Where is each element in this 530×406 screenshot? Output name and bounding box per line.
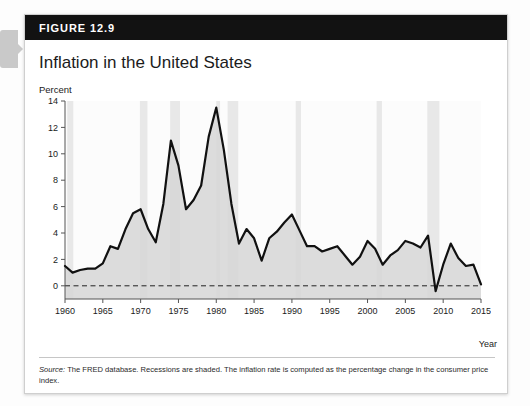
svg-text:14: 14: [48, 97, 58, 106]
svg-text:10: 10: [48, 149, 58, 159]
svg-text:1980: 1980: [206, 306, 226, 316]
svg-text:1985: 1985: [244, 306, 264, 316]
figure-card: FIGURE 12.9 Inflation in the United Stat…: [24, 14, 508, 394]
svg-text:1995: 1995: [320, 306, 340, 316]
svg-text:2010: 2010: [433, 306, 453, 316]
chart-plot-area: 0246810121419601965197019751980198519901…: [39, 97, 491, 329]
svg-text:8: 8: [53, 175, 58, 185]
svg-text:1960: 1960: [55, 306, 75, 316]
inflation-line-chart: 0246810121419601965197019751980198519901…: [39, 97, 491, 329]
figure-header: FIGURE 12.9: [25, 15, 507, 40]
svg-text:0: 0: [53, 281, 58, 291]
y-axis-unit-label: Percent: [25, 73, 507, 95]
figure-number-label: FIGURE 12.9: [25, 22, 115, 34]
svg-text:1970: 1970: [131, 306, 151, 316]
source-prefix: Source:: [39, 365, 65, 374]
svg-text:1965: 1965: [93, 306, 113, 316]
source-divider: [39, 357, 495, 358]
svg-text:4: 4: [53, 228, 58, 238]
svg-text:2: 2: [53, 255, 58, 265]
x-axis-title: Year: [479, 339, 497, 349]
svg-text:6: 6: [53, 202, 58, 212]
svg-text:2005: 2005: [395, 306, 415, 316]
svg-text:12: 12: [48, 123, 58, 133]
svg-text:1990: 1990: [282, 306, 302, 316]
page-bookmark-tab: [0, 30, 18, 68]
figure-title: Inflation in the United States: [25, 40, 507, 73]
figure-page: FIGURE 12.9 Inflation in the United Stat…: [0, 0, 530, 406]
svg-text:1975: 1975: [168, 306, 188, 316]
source-note: Source: The FRED database. Recessions ar…: [39, 364, 491, 387]
svg-text:2000: 2000: [358, 306, 378, 316]
source-text: The FRED database. Recessions are shaded…: [39, 365, 488, 385]
svg-text:2015: 2015: [471, 306, 491, 316]
